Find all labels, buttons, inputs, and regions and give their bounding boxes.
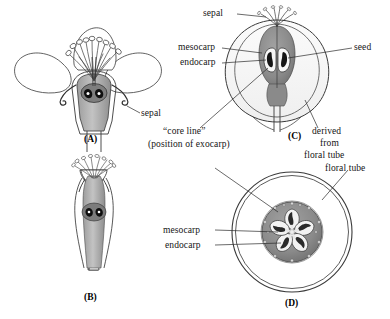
label-endocarp-c: endocarp [180, 57, 216, 68]
label-derived-line3: floral tube [304, 150, 344, 161]
label-floral-tube-d: floral tube [325, 163, 365, 174]
ovule-left [87, 92, 90, 95]
label-derived-line2: from [320, 138, 339, 149]
panel-c-apple-longitudinal-diagram [200, 5, 352, 132]
figure-root: sepal (A) (B) sepal mesocarp endocarp se… [0, 0, 390, 319]
label-endocarp-d: endocarp [165, 240, 201, 251]
label-core-line-sub: (position of exocarp) [148, 139, 230, 150]
label-derived-line1: derived [312, 126, 341, 137]
core-center-d [290, 230, 295, 235]
panel-d-apple-transverse-diagram [215, 168, 352, 292]
panel-label-c: (C) [288, 131, 301, 141]
label-mesocarp-c: mesocarp [178, 42, 215, 53]
calyx-anthers-c [257, 5, 297, 15]
label-seed-c: seed [354, 42, 371, 53]
panel-label-d: (D) [285, 298, 298, 308]
panel-label-b: (B) [84, 292, 97, 302]
panel-label-a: (A) [84, 134, 97, 144]
label-sepal-c: sepal [203, 8, 223, 19]
label-core-line: “core line” [163, 126, 206, 137]
label-mesocarp-d: mesocarp [163, 225, 200, 236]
petal-left [15, 53, 72, 93]
leader-sepal-a [127, 106, 140, 113]
withered-anthers-b [71, 154, 116, 168]
young-seed-right [98, 211, 101, 214]
panel-b-young-fruit-diagram [71, 154, 116, 270]
young-seed-left [88, 211, 91, 214]
young-hypanthium [83, 176, 105, 268]
label-sepal-a: sepal [141, 108, 161, 119]
ovule-right [98, 92, 101, 95]
